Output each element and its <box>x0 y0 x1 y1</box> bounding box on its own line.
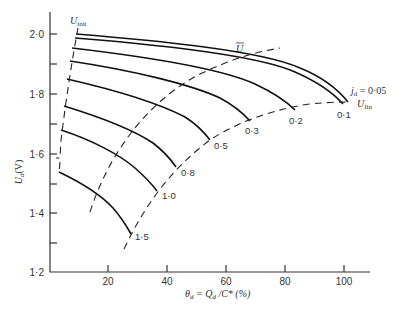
y-tick-labels: 2·0 1·8 1·6 1·4 1·2 <box>30 29 45 278</box>
annotations: Uinit U jd = 0·05 Ufin 0·1 0·2 0·3 0·5 0… <box>70 15 386 242</box>
curve-label-0.3: 0·3 <box>245 125 259 136</box>
svg-text:1·6: 1·6 <box>30 149 45 160</box>
svg-text:60: 60 <box>220 276 232 287</box>
svg-text:40: 40 <box>161 276 173 287</box>
curve-jd-0.3 <box>70 61 250 121</box>
svg-text:Ud(V): Ud(V) <box>13 160 26 185</box>
curve-label-1.0: 1·0 <box>162 190 176 201</box>
u-init-line <box>56 28 78 158</box>
svg-text:1·4: 1·4 <box>30 208 45 219</box>
y-ticks <box>50 34 57 243</box>
x-ticks <box>108 265 344 272</box>
svg-text:1·2: 1·2 <box>30 267 45 278</box>
svg-text:2·0: 2·0 <box>30 29 45 40</box>
curve-label-0.8: 0·8 <box>181 167 195 178</box>
curve-label-1.5: 1·5 <box>135 231 149 242</box>
x-tick-labels: 20 40 60 80 100 <box>102 276 352 287</box>
curve-label-0.1: 0·1 <box>337 109 351 120</box>
curve-jd-1.0 <box>61 130 157 191</box>
y-axis-title: Ud(V) <box>13 160 26 185</box>
u-fin-line <box>124 102 350 249</box>
jd-label: jd = 0·05 <box>349 85 386 98</box>
x-axis-title: θd = Qd /C* (%) <box>185 288 251 301</box>
u-init-label: Uinit <box>70 15 87 28</box>
curve-jd-1.5 <box>59 172 131 234</box>
svg-text:80: 80 <box>279 276 291 287</box>
curves <box>59 34 348 234</box>
curve-label-0.5: 0·5 <box>214 140 228 151</box>
curve-label-0.2: 0·2 <box>289 115 303 126</box>
curve-jd-0.5 <box>67 79 210 140</box>
svg-text:1·8: 1·8 <box>30 89 45 100</box>
svg-text:100: 100 <box>336 276 353 287</box>
svg-text:20: 20 <box>102 276 114 287</box>
chart-area: 2·0 1·8 1·6 1·4 1·2 20 40 60 80 100 Ud(V… <box>0 0 400 309</box>
svg-text:θd = Qd /C* (%): θd = Qd /C* (%) <box>185 288 251 301</box>
u-fin-label: Ufin <box>357 98 373 111</box>
u-bar-label: U <box>236 43 244 54</box>
